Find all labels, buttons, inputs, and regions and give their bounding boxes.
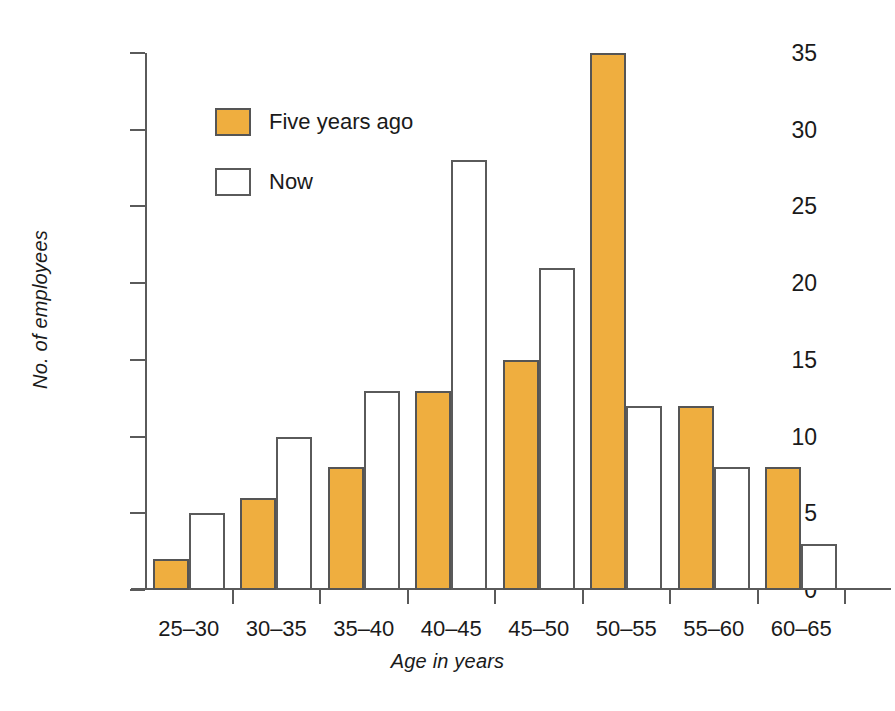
bar (415, 391, 451, 590)
bar (364, 391, 400, 590)
y-axis-tick-label: 20 (757, 270, 817, 297)
legend: Five years ago Now (215, 105, 413, 225)
x-axis-category-label: 25–30 (158, 616, 219, 642)
y-axis-tick (130, 512, 145, 514)
y-axis-tick (130, 52, 145, 54)
x-axis-category-label: 50–55 (596, 616, 657, 642)
y-axis-tick (130, 205, 145, 207)
x-axis-tick (669, 590, 671, 604)
bar (189, 513, 225, 590)
x-axis-category-label: 55–60 (683, 616, 744, 642)
bar (626, 406, 662, 590)
y-axis-title: No. of employees (29, 200, 52, 420)
bar (590, 53, 626, 590)
y-axis-tick-label: 10 (757, 423, 817, 450)
bar (539, 268, 575, 590)
y-axis-tick-label: 35 (757, 40, 817, 67)
y-axis-tick (130, 589, 145, 591)
bar (153, 559, 189, 590)
legend-item: Five years ago (215, 105, 413, 139)
legend-swatch-five-years-ago (215, 108, 251, 136)
x-axis-tick (582, 590, 584, 604)
x-axis-category-label: 40–45 (421, 616, 482, 642)
y-axis-line (145, 53, 147, 590)
x-axis-category-label: 60–65 (771, 616, 832, 642)
legend-label-now: Now (269, 169, 313, 195)
x-axis-tick (232, 590, 234, 604)
y-axis-tick-label: 15 (757, 346, 817, 373)
legend-swatch-now (215, 168, 251, 196)
x-axis-category-label: 45–50 (508, 616, 569, 642)
y-axis-tick-label: 30 (757, 116, 817, 143)
x-axis-category-label: 35–40 (333, 616, 394, 642)
bar (276, 437, 312, 590)
bar (503, 360, 539, 590)
y-axis-tick-label: 25 (757, 193, 817, 220)
x-axis-category-label: 30–35 (246, 616, 307, 642)
y-axis-tick (130, 359, 145, 361)
x-axis-tick (319, 590, 321, 604)
y-axis-tick (130, 436, 145, 438)
legend-item: Now (215, 165, 413, 199)
legend-label-five-years-ago: Five years ago (269, 109, 413, 135)
x-axis-tick (494, 590, 496, 604)
x-axis-title: Age in years (0, 650, 895, 673)
bar (328, 467, 364, 590)
x-axis-tick (757, 590, 759, 604)
bar (678, 406, 714, 590)
bar (765, 467, 801, 590)
y-axis-tick (130, 129, 145, 131)
bar (714, 467, 750, 590)
x-axis-tick (407, 590, 409, 604)
bar (801, 544, 837, 590)
y-axis-tick (130, 282, 145, 284)
bar (451, 160, 487, 590)
bar (240, 498, 276, 590)
bar-chart: No. of employees Age in years 0510152025… (0, 0, 895, 711)
x-axis-tick (844, 590, 846, 604)
